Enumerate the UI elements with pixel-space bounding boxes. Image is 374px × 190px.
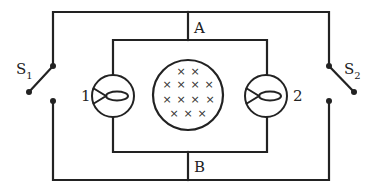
s2-bottom-contact bbox=[326, 98, 332, 104]
svg-text:×: × bbox=[162, 93, 171, 106]
lamp-2-icon bbox=[245, 75, 287, 117]
switch-s1-label: S1 bbox=[16, 62, 33, 77]
svg-text:×: × bbox=[176, 78, 185, 91]
svg-text:×: × bbox=[169, 107, 178, 120]
switch-s2-label-sub: 2 bbox=[354, 70, 360, 81]
lamp-1-icon bbox=[92, 75, 134, 117]
svg-text:×: × bbox=[176, 93, 185, 106]
lamp-1-label: 1 bbox=[81, 89, 91, 104]
switch-s1-label-sub: 1 bbox=[26, 70, 32, 81]
svg-text:×: × bbox=[204, 78, 213, 91]
svg-text:×: × bbox=[190, 93, 199, 106]
svg-text:×: × bbox=[197, 107, 206, 120]
s1-bottom-contact bbox=[50, 98, 56, 104]
svg-text:×: × bbox=[183, 107, 192, 120]
s2-top-contact bbox=[326, 63, 332, 69]
svg-text:×: × bbox=[190, 65, 199, 78]
switch-s2-label: S2 bbox=[344, 62, 361, 77]
svg-text:×: × bbox=[205, 93, 214, 106]
svg-text:×: × bbox=[162, 78, 171, 91]
s1-blade-end bbox=[26, 89, 32, 95]
s1-top-contact bbox=[50, 63, 56, 69]
circuit-diagram: ×× ×××× ×××× ××× A B S1 S2 1 2 bbox=[0, 0, 374, 190]
switch-s2-label-main: S bbox=[344, 60, 354, 78]
magnetic-field-region: ×× ×××× ×××× ××× bbox=[153, 60, 223, 130]
svg-text:×: × bbox=[176, 65, 185, 78]
circuit-drawing: ×× ×××× ×××× ××× bbox=[0, 0, 374, 190]
lamp-2-label: 2 bbox=[293, 89, 303, 104]
svg-text:×: × bbox=[190, 78, 199, 91]
s2-blade-end bbox=[351, 89, 357, 95]
switch-s1-label-main: S bbox=[16, 60, 26, 78]
node-b-label: B bbox=[194, 160, 205, 175]
inner-wire-bottom bbox=[113, 117, 267, 152]
node-a-label: A bbox=[194, 21, 205, 36]
field-crosses-icon: ×× ×××× ×××× ××× bbox=[162, 65, 214, 120]
